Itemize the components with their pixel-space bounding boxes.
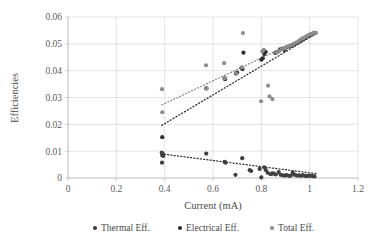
x-tick-label: 1.2 bbox=[352, 184, 364, 194]
y-tick-label: 0 bbox=[57, 173, 62, 183]
legend-marker bbox=[270, 226, 274, 230]
y-tick-label: 0.02 bbox=[45, 120, 62, 130]
x-axis-tick-labels: 00.20.40.60.811.2 bbox=[66, 178, 365, 194]
legend-label: Total Eff. bbox=[278, 223, 314, 233]
y-tick-label: 0.04 bbox=[45, 66, 62, 76]
y-tick-label: 0.05 bbox=[45, 39, 62, 49]
data-point bbox=[223, 161, 227, 165]
data-point bbox=[266, 84, 270, 88]
data-point bbox=[160, 87, 164, 91]
data-point bbox=[160, 110, 164, 114]
data-point bbox=[241, 31, 245, 35]
x-tick-label: 0 bbox=[66, 184, 71, 194]
data-point bbox=[205, 86, 209, 90]
data-point bbox=[204, 63, 208, 67]
legend-marker bbox=[93, 226, 97, 230]
data-point bbox=[240, 156, 244, 160]
y-tick-label: 0.03 bbox=[45, 93, 62, 103]
trendline bbox=[162, 33, 317, 125]
x-tick-label: 0.6 bbox=[207, 184, 219, 194]
data-point bbox=[240, 65, 244, 69]
x-tick-label: 1 bbox=[307, 184, 312, 194]
legend-label: Electrical Eff. bbox=[186, 223, 239, 233]
legend-marker bbox=[178, 226, 182, 230]
chart-legend: Thermal Eff.Electrical Eff.Total Eff. bbox=[93, 223, 314, 233]
x-axis-title: Current (mA) bbox=[184, 200, 242, 212]
data-point bbox=[249, 169, 253, 173]
data-point bbox=[223, 76, 227, 80]
data-point bbox=[314, 31, 318, 35]
data-point bbox=[262, 48, 266, 52]
legend-label: Thermal Eff. bbox=[101, 223, 150, 233]
data-point bbox=[160, 135, 164, 139]
efficiencies-scatter-chart: 00.010.020.030.040.050.06 00.20.40.60.81… bbox=[0, 0, 376, 244]
data-point bbox=[204, 151, 208, 155]
data-point bbox=[258, 167, 262, 171]
data-point bbox=[222, 61, 226, 65]
data-point bbox=[259, 99, 263, 103]
data-point bbox=[233, 173, 237, 177]
data-point bbox=[161, 154, 165, 158]
data-point bbox=[261, 56, 265, 60]
y-axis-tick-labels: 00.010.020.030.040.050.06 bbox=[45, 12, 68, 183]
x-tick-label: 0.2 bbox=[110, 184, 122, 194]
data-point bbox=[259, 175, 263, 179]
series-thermal-eff bbox=[160, 150, 317, 179]
y-tick-label: 0.01 bbox=[45, 147, 62, 157]
data-point bbox=[241, 51, 245, 55]
gridlines bbox=[68, 17, 358, 178]
trendlines bbox=[161, 32, 317, 174]
y-tick-label: 0.06 bbox=[45, 12, 62, 22]
data-point bbox=[312, 174, 316, 178]
data-points bbox=[160, 30, 318, 179]
data-point bbox=[270, 97, 274, 101]
x-tick-label: 0.4 bbox=[159, 184, 171, 194]
x-tick-label: 0.8 bbox=[255, 184, 267, 194]
chart-container: 00.010.020.030.040.050.06 00.20.40.60.81… bbox=[0, 0, 376, 244]
data-point bbox=[160, 161, 164, 165]
y-axis-title: Efficiencies bbox=[9, 73, 20, 123]
data-point bbox=[234, 71, 238, 75]
